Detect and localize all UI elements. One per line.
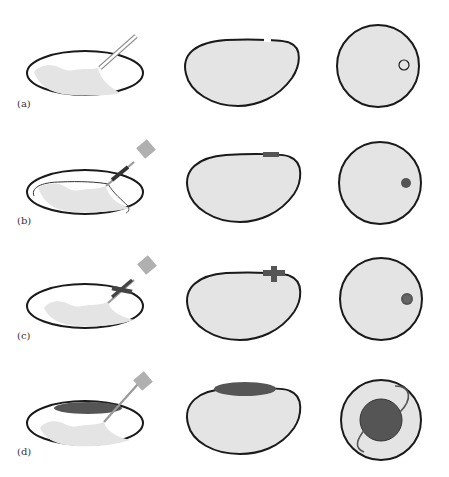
row-a-circle bbox=[337, 25, 419, 107]
row-d-dish bbox=[27, 371, 153, 446]
row-d-circle bbox=[341, 380, 421, 460]
row-b-dish bbox=[27, 139, 156, 214]
label-d: (d) bbox=[17, 446, 31, 457]
row-b-circle bbox=[339, 142, 421, 224]
procedure-diagram: (a) (b) (c) (d) bbox=[0, 0, 449, 477]
label-b: (b) bbox=[17, 215, 31, 226]
label-c: (c) bbox=[17, 330, 30, 341]
row-c-circle bbox=[340, 258, 422, 340]
row-d-oval bbox=[187, 382, 300, 454]
diagram-canvas bbox=[0, 0, 449, 477]
row-c-dish bbox=[27, 255, 157, 328]
row-a-dish bbox=[27, 36, 143, 96]
row-b-oval bbox=[187, 152, 300, 222]
row-c-oval bbox=[187, 266, 300, 340]
row-a-oval bbox=[185, 40, 299, 106]
label-a: (a) bbox=[17, 98, 31, 109]
